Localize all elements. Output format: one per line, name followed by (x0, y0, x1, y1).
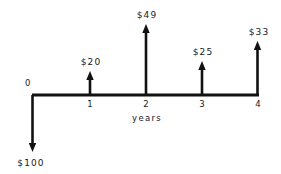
inflow-arrowhead-year-2 (142, 24, 149, 33)
cashflow-label-year-3: $25 (193, 47, 213, 57)
inflow-arrowhead-year-3 (198, 61, 205, 70)
tick-label-2: 2 (143, 100, 148, 109)
cashflow-label-year-4: $33 (249, 27, 269, 37)
cashflow-label-year-0: $100 (17, 158, 44, 168)
origin-label: 0 (25, 79, 30, 88)
cashflow-label-year-2: $49 (137, 10, 157, 20)
tick-label-1: 1 (87, 100, 92, 109)
tick-label-3: 3 (199, 100, 204, 109)
axis-caption-years: years (132, 114, 162, 123)
inflow-arrow-year-4 (254, 41, 261, 96)
inflow-arrowhead-year-4 (254, 41, 261, 50)
inflow-arrow-year-2 (142, 24, 149, 96)
diagram-canvas (0, 0, 281, 174)
outflow-arrowhead-year-0 (29, 143, 36, 152)
cashflow-label-year-1: $20 (81, 57, 101, 67)
inflow-arrow-year-3 (198, 61, 205, 96)
outflow-arrow-year-0 (29, 95, 36, 152)
inflow-arrowhead-year-1 (86, 71, 93, 80)
cash-flow-diagram: 0 $100 $20 $49 $25 $33 1 2 3 4 years (0, 0, 281, 174)
inflow-arrow-year-1 (86, 71, 93, 96)
tick-label-4: 4 (255, 100, 260, 109)
